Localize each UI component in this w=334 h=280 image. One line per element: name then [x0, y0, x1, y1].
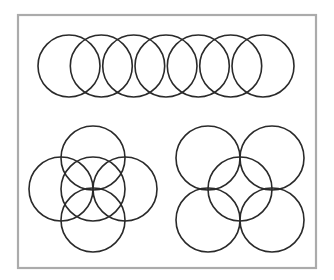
plus-cluster-group [29, 126, 157, 252]
circle [167, 35, 229, 97]
circle [38, 35, 100, 97]
circle [232, 35, 294, 97]
circle [103, 35, 165, 97]
overlapping-circles-diagram [0, 0, 334, 280]
circle [135, 35, 197, 97]
row-of-seven-group [38, 35, 294, 97]
circle [200, 35, 262, 97]
x-cluster-group [176, 126, 304, 252]
circle-groups [29, 35, 304, 252]
circle [70, 35, 132, 97]
